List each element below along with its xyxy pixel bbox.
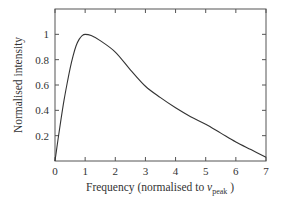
y-tick-label: 0.6 [35,79,49,91]
x-axis-tick-labels: 01234567 [52,165,269,177]
intensity-curve [55,34,266,161]
y-tick-label: 0.2 [35,130,49,142]
x-tick-label: 6 [233,165,239,177]
x-axis-title-subscript: peak [212,187,227,196]
chart: 01234567 0.20.40.60.81 Normalised intens… [0,0,282,206]
y-axis-title: Normalised intensity [12,37,25,133]
y-tick-label: 0.8 [35,54,49,66]
x-tick-label: 7 [263,165,269,177]
plot-frame [55,9,266,161]
y-axis-tick-labels: 0.20.40.60.81 [35,28,49,141]
x-tick-label: 0 [52,165,58,177]
x-axis-ticks [55,9,266,161]
y-tick-label: 0.4 [35,104,49,116]
y-axis-ticks [55,34,266,135]
x-axis-title-end: ) [227,181,234,194]
x-tick-label: 2 [113,165,119,177]
x-axis-title: Frequency (normalised to νpeak ) [86,181,234,196]
x-tick-label: 3 [143,165,149,177]
x-tick-label: 1 [82,165,88,177]
x-axis-title-main: Frequency (normalised to [86,181,207,194]
x-tick-label: 4 [173,165,179,177]
y-tick-label: 1 [44,28,50,40]
x-tick-label: 5 [203,165,209,177]
